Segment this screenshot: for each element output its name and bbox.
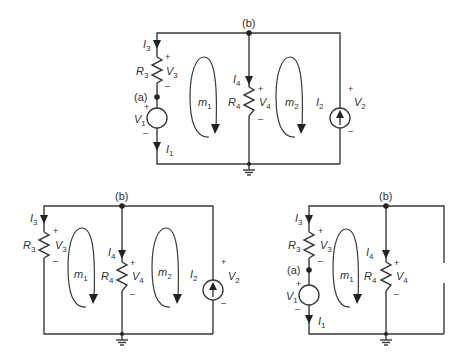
label-r3: R3 [288,239,301,254]
label-i1: I1 [166,143,174,158]
resistor-r4 [117,262,127,291]
label-node-b: (b) [115,190,128,202]
wires [309,206,444,334]
sign-plus-v4: + [258,84,263,94]
sign-minus-v4: – [130,289,135,299]
ground-icon [116,334,128,345]
label-i3: I3 [30,212,38,227]
label-v3: V3 [55,239,67,254]
label-i3: I3 [143,38,151,53]
current-source-i2 [330,108,350,128]
current-arrow-i4 [245,76,253,85]
node-a [154,94,160,100]
current-arrow-i4 [118,250,126,259]
ground-icon [380,334,392,345]
label-v2: V2 [228,270,240,285]
label-i1: I1 [318,315,326,330]
circuit-full: (b) (a) I3 R3 V3 + – V1 + – I1 m1 I4 R4 … [134,17,366,175]
resistor-r3 [39,232,49,258]
wires [44,206,213,334]
current-source-i2 [203,280,223,300]
sign-minus-v3: – [165,81,170,91]
resistor-r3 [152,57,162,83]
sign-minus-v2: – [348,126,353,136]
label-r3: R3 [23,239,36,254]
voltage-source-v1 [299,285,319,305]
label-i2: I2 [316,96,324,111]
label-v1: V1 [134,113,146,128]
label-v1: V1 [286,290,298,305]
sign-plus-v1: + [296,279,301,289]
sign-minus-v4: – [258,114,263,124]
label-r4: R4 [228,96,241,111]
label-i4: I4 [233,73,241,88]
sign-plus-v2: + [221,257,226,267]
sign-minus-v3: – [318,256,323,266]
sign-plus-v3: + [318,226,323,236]
label-i4: I4 [366,246,374,261]
resistor-r4 [381,262,391,291]
current-arrow-i1 [153,142,161,151]
label-i2: I2 [190,268,198,283]
sign-plus-v1: + [144,102,149,112]
current-arrow-i1 [305,315,313,324]
circuit-diagram: (b) (a) I3 R3 V3 + – V1 + – I1 m1 I4 R4 … [0,0,469,363]
resistor-r4 [244,87,254,116]
current-arrow-i3 [153,40,161,49]
circuit-i2-killed: (b) (a) I3 R3 V3 + – V1 + – I1 m1 I4 R4 … [286,190,444,345]
label-v3: V3 [320,239,332,254]
label-v4: V4 [259,96,271,111]
node-b [119,203,125,209]
sign-plus-v3: + [165,52,170,62]
sign-minus-v3: – [53,256,58,266]
label-node-a: (a) [287,264,300,276]
current-arrow-i4 [382,250,390,259]
label-node-b: (b) [379,190,392,202]
sign-minus-v1: – [143,128,148,138]
current-arrow-i3 [305,215,313,224]
sign-minus-v1: – [295,304,300,314]
sign-plus-v2: + [348,84,353,94]
label-i4: I4 [108,246,116,261]
label-m2: m2 [285,96,299,111]
sign-plus-v4: + [394,258,399,268]
node-a [306,267,312,273]
ground-icon [243,164,255,175]
current-arrow-i3 [40,215,48,224]
sign-plus-v4: + [130,258,135,268]
voltage-source-v1 [147,108,167,128]
label-v3: V3 [166,65,178,80]
label-m1: m1 [198,96,212,111]
label-i3: I3 [295,212,303,227]
label-r4: R4 [364,270,377,285]
sign-minus-v4: – [394,289,399,299]
circuit-v1-killed: (b) I3 R3 V3 + – m1 I4 R4 V4 + – m2 I2 V… [23,190,240,345]
label-r3: R3 [136,65,149,80]
label-r4: R4 [101,270,114,285]
sign-plus-v3: + [53,226,58,236]
label-v4: V4 [132,270,144,285]
node-b [246,30,252,36]
label-m2: m2 [158,266,172,281]
label-v2: V2 [354,96,366,111]
resistor-r3 [304,232,314,258]
wires [157,33,340,164]
label-node-b: (b) [242,17,255,29]
label-m1: m1 [74,268,88,283]
label-m1: m1 [340,269,354,284]
label-v4: V4 [396,270,408,285]
node-b [383,203,389,209]
sign-minus-v2: – [221,298,226,308]
